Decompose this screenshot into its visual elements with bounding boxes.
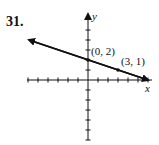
svg-text:(0, 2): (0, 2)	[91, 45, 115, 58]
axes	[27, 14, 152, 140]
coordinate-plane: (0, 2)(3, 1) x y	[0, 0, 159, 145]
svg-text:(3, 1): (3, 1)	[121, 55, 145, 68]
x-axis-label: x	[144, 82, 150, 94]
labeled-points: (0, 2)(3, 1)	[86, 45, 145, 72]
y-axis-label: y	[91, 10, 97, 22]
